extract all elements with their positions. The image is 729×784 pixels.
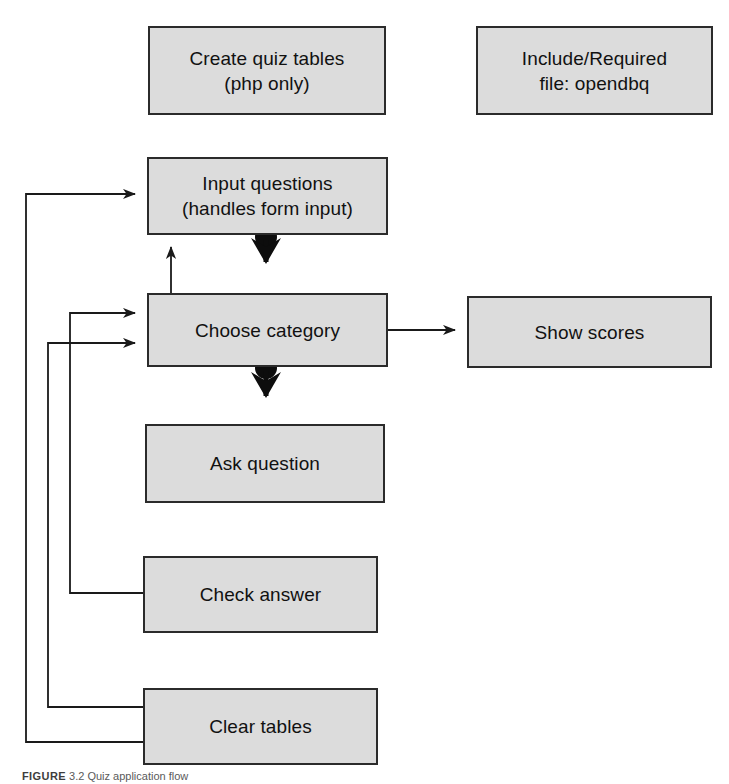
figure-caption-tag: FIGURE [22,770,66,782]
node-label: Choose category [189,318,346,343]
edge-check-answer-to-choose-category [70,313,143,593]
node-label: Check answer [194,582,328,607]
edge-layer [0,0,729,784]
node-label: Clear tables [203,714,318,739]
figure-container: Create quiz tables (php only) Include/Re… [0,0,729,784]
edge-clear-tables-to-choose-category [48,343,143,707]
node-label: Include/Required file: opendbq [516,46,673,96]
node-label: Ask question [204,451,326,476]
node-create-quiz-tables[interactable]: Create quiz tables (php only) [148,26,386,115]
node-show-scores[interactable]: Show scores [467,296,712,368]
node-include-required[interactable]: Include/Required file: opendbq [476,26,713,115]
node-choose-category[interactable]: Choose category [147,293,388,367]
figure-caption-number: 3.2 [69,770,84,782]
node-input-questions[interactable]: Input questions (handles form input) [147,157,388,235]
figure-caption: FIGURE 3.2 Quiz application flow [22,770,662,783]
node-clear-tables[interactable]: Clear tables [143,688,378,765]
node-check-answer[interactable]: Check answer [143,556,378,633]
node-ask-question[interactable]: Ask question [145,424,385,503]
node-label: Create quiz tables (php only) [184,46,351,96]
edge-clear-tables-to-input-questions [26,194,143,742]
node-label: Show scores [529,320,651,345]
node-label: Input questions (handles form input) [176,171,359,221]
figure-caption-text: Quiz application flow [87,770,188,782]
